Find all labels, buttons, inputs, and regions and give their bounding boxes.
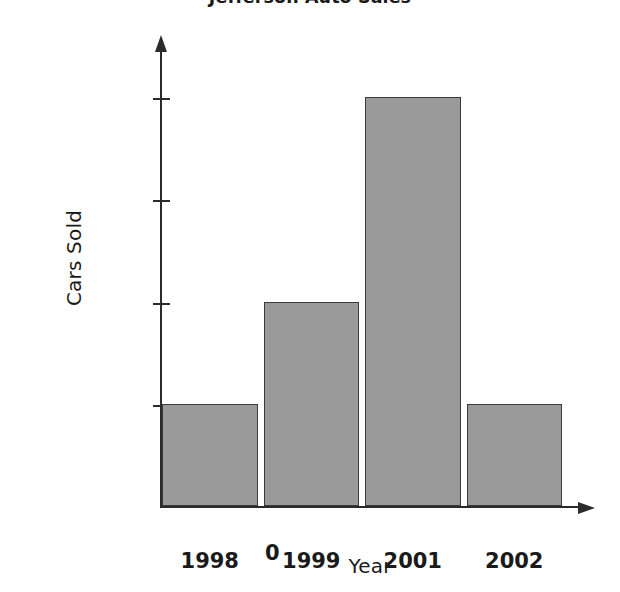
bar <box>264 302 360 506</box>
bar-series <box>162 36 580 506</box>
x-axis-arrow-icon <box>578 502 595 514</box>
x-axis-line <box>160 506 580 508</box>
y-axis-title: Cars Sold <box>62 178 86 338</box>
chart-title: Jefferson Auto Sales <box>0 0 620 7</box>
bar <box>467 404 563 506</box>
plot-area: 4,0003,0002,0001,000 0 1998199920012002 <box>160 36 580 508</box>
bar <box>162 404 258 506</box>
bar-chart-figure: Jefferson Auto Sales 4,0003,0002,0001,00… <box>0 0 620 592</box>
bar <box>365 97 461 506</box>
x-axis-title: Year <box>160 554 580 578</box>
